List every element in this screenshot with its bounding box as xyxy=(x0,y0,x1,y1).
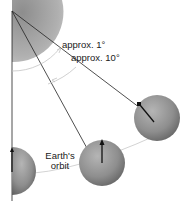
sight-line-right xyxy=(12,11,152,117)
angle-arc-inner xyxy=(48,67,76,84)
earth-position-1 xyxy=(12,147,36,195)
orbit-label: Earth's orbit xyxy=(42,151,78,171)
angle-label-large: approx. 10° xyxy=(71,53,120,63)
angle-arrow-large xyxy=(52,78,57,82)
diagram-canvas xyxy=(0,0,181,201)
angle-label-small: approx. 1° xyxy=(62,40,105,50)
earth-3-axis-marker xyxy=(137,102,141,106)
earth-position-3 xyxy=(134,95,180,141)
orbit-label-line2: orbit xyxy=(42,161,78,171)
